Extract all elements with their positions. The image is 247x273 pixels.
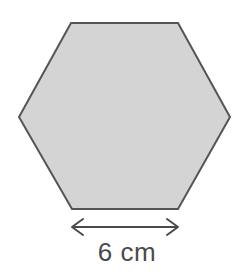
hexagon-figure: 6 cm <box>0 0 247 273</box>
figure-canvas: 6 cm <box>0 0 247 273</box>
dimension-label: 6 cm <box>98 237 156 267</box>
